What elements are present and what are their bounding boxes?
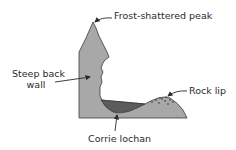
peak-label: Frost-shattered peak	[114, 10, 212, 21]
rock-lip-arrow	[168, 91, 187, 96]
back-wall-label-line2: wall	[12, 79, 60, 90]
peak-arrow	[95, 18, 112, 22]
back-wall-label-line1: Steep back	[12, 68, 60, 79]
rock-lip-label: Rock lip	[189, 85, 226, 96]
corrie-lochan-label: Corrie lochan	[88, 133, 151, 144]
corrie-diagram: Frost-shattered peak Steep back wall Roc…	[0, 0, 236, 150]
